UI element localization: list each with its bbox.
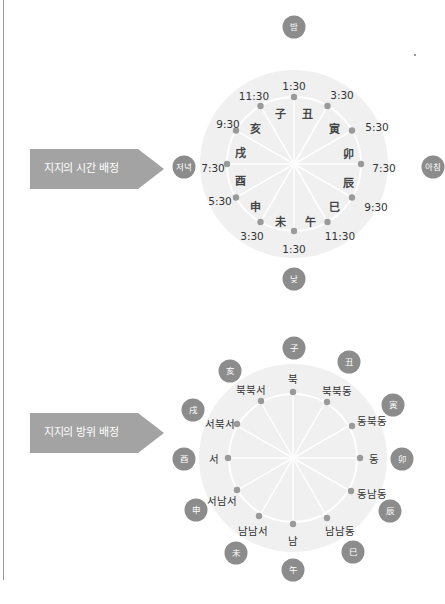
direction-label: 남남서 xyxy=(238,523,268,538)
direction-label: 서북서 xyxy=(205,416,235,431)
branch-badge: 午 xyxy=(282,559,305,582)
direction-label: 서 xyxy=(209,451,219,466)
direction-label: 동북동 xyxy=(357,413,387,428)
direction-label: 남 xyxy=(288,533,298,548)
direction-label: 서남서 xyxy=(207,493,237,508)
direction-label: 북북서 xyxy=(236,382,266,397)
direction-label: 동남동 xyxy=(357,486,387,501)
branch-badge: 未 xyxy=(225,542,248,565)
branch-badge: 亥 xyxy=(219,360,242,383)
branch-badge: 申 xyxy=(185,499,208,522)
branch-badge: 寅 xyxy=(382,394,405,417)
direction-label: 남남동 xyxy=(325,523,355,538)
branch-badge: 巳 xyxy=(342,541,365,564)
branch-badge: 酉 xyxy=(173,448,196,471)
direction-label: 북북동 xyxy=(322,383,352,398)
branch-badge: 戌 xyxy=(182,399,205,422)
branch-badge: 子 xyxy=(283,337,306,360)
direction-label: 북 xyxy=(288,371,298,386)
branch-badge: 卯 xyxy=(391,448,414,471)
branch-badge: 丑 xyxy=(338,351,361,374)
branch-badge: 辰 xyxy=(379,500,402,523)
direction-label: 동 xyxy=(369,451,379,466)
